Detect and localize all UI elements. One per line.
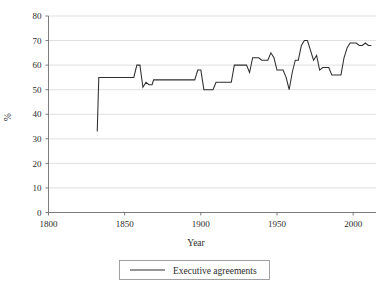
y-tick-label: 70 xyxy=(33,36,43,46)
x-tick-label: 1900 xyxy=(192,219,211,229)
y-tick-label: 40 xyxy=(33,109,43,119)
x-tick-label: 1800 xyxy=(40,219,59,229)
x-tick-label: 2000 xyxy=(344,219,363,229)
y-tick-label: 80 xyxy=(33,11,43,21)
y-tick-label: 20 xyxy=(33,159,43,169)
chart-container: 01020304050607080 18001850190019502000 Y… xyxy=(0,0,382,291)
x-tick-label: 1950 xyxy=(268,219,287,229)
line-chart: 01020304050607080 18001850190019502000 Y… xyxy=(0,0,382,291)
x-tick-label: 1850 xyxy=(116,219,135,229)
legend: Executive agreements xyxy=(120,261,270,280)
y-axis-tick-labels: 01020304050607080 xyxy=(33,11,43,218)
y-tick-label: 50 xyxy=(33,85,43,95)
y-tick-label: 0 xyxy=(37,208,42,218)
x-axis-tick-labels: 18001850190019502000 xyxy=(40,219,363,229)
series-line-executive-agreements xyxy=(97,41,371,132)
y-tick-label: 30 xyxy=(33,134,43,144)
legend-label-executive-agreements: Executive agreements xyxy=(173,266,257,276)
x-axis-title: Year xyxy=(187,238,205,248)
y-tick-label: 10 xyxy=(33,183,43,193)
y-tick-label: 60 xyxy=(33,60,43,70)
y-axis-title: % xyxy=(3,113,13,121)
